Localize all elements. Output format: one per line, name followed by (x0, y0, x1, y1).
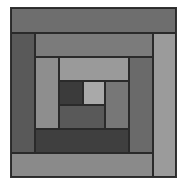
patch-ring2-top (35, 33, 153, 57)
patch-ring3-bottom (59, 105, 105, 129)
patch-ring2-right (129, 57, 153, 153)
patch-ring1-top (11, 8, 176, 33)
patch-center-light (83, 81, 105, 105)
patch-center-dark (59, 81, 83, 105)
patch-ring1-right (153, 33, 176, 177)
patch-ring2-bottom (35, 129, 129, 153)
patch-ring3-right (105, 81, 129, 129)
patch-ring1-left (11, 33, 35, 153)
patch-ring1-bottom (11, 153, 153, 177)
quilt-block (11, 8, 176, 177)
patch-ring3-top (59, 57, 129, 81)
patch-ring2-left (35, 57, 59, 129)
